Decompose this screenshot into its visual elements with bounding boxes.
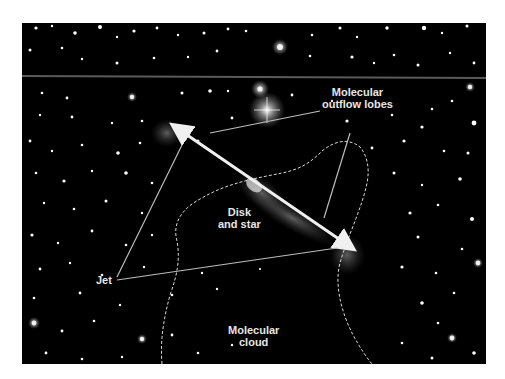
label-jet: Jet [96,274,112,286]
outflow-nebula [151,119,365,275]
label-line: Disk [218,206,261,218]
jet-arrow [174,126,352,248]
label-line: outflow lobes [322,98,393,110]
scan-line [22,76,486,78]
label-disk-and-star: Disk and star [218,206,261,230]
label-molecular-outflow-lobes: Molecular outflow lobes [322,86,393,110]
label-line: cloud [228,336,279,348]
astronomy-image: Molecular outflow lobes Disk and star Je… [22,23,486,364]
bright-star [272,39,288,55]
label-line: and star [218,218,261,230]
label-line: Molecular [322,86,393,98]
label-molecular-cloud: Molecular cloud [228,324,279,348]
label-line: Jet [96,274,112,286]
label-line: Molecular [228,324,279,336]
sky-field [22,23,486,364]
